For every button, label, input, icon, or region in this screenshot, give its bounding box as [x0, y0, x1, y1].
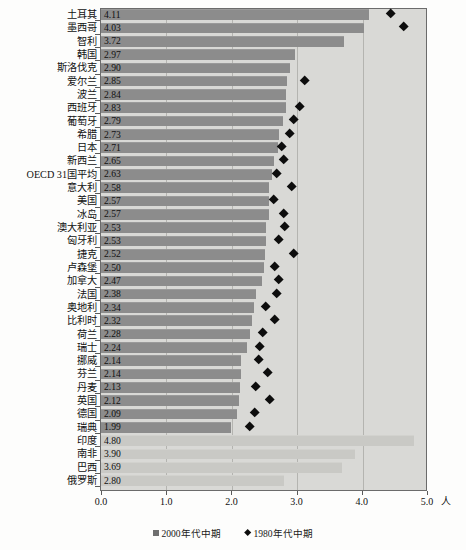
category-tick	[95, 486, 100, 487]
category-label: 爱尔兰	[0, 75, 97, 88]
chart-row: 匈牙利2.53	[0, 234, 466, 247]
category-label: 冰岛	[0, 208, 97, 221]
chart-row: 俄罗斯2.80	[0, 474, 466, 487]
bar-track: 2.24	[101, 342, 427, 354]
bar-track: 3.90	[101, 448, 427, 460]
diamond-marker-1980s	[254, 355, 264, 365]
bar-track: 2.09	[101, 408, 427, 420]
diamond-marker-1980s	[269, 195, 279, 205]
bar-value-label: 3.72	[104, 35, 121, 47]
chart-row: 比利时2.32	[0, 314, 466, 327]
bar-value-label: 2.80	[104, 475, 121, 487]
bar-track: 2.85	[101, 75, 427, 87]
x-axis-unit: 人	[441, 495, 451, 508]
bar-value-label: 2.53	[104, 222, 121, 234]
category-label: 南非	[0, 447, 97, 460]
diamond-marker-1980s	[273, 275, 283, 285]
bar-value-label: 4.11	[104, 9, 120, 21]
bar-2000s	[101, 475, 284, 486]
bar-track: 2.52	[101, 248, 427, 260]
bar-value-label: 2.79	[104, 115, 121, 127]
diamond-marker-1980s	[261, 301, 271, 311]
bar-value-label: 1.99	[104, 421, 121, 433]
chart-row: 西班牙2.83	[0, 101, 466, 114]
bar-2000s	[101, 102, 286, 113]
chart-row: 巴西3.69	[0, 461, 466, 474]
bar-track: 2.73	[101, 129, 427, 141]
chart-row: 瑞士2.24	[0, 341, 466, 354]
category-label: 挪威	[0, 354, 97, 367]
bar-2000s	[101, 63, 290, 74]
legend-item-1980s: 1980年代中期	[245, 526, 313, 541]
figure-caption	[0, 544, 466, 550]
diamond-marker-1980s	[269, 261, 279, 271]
diamond-marker-1980s	[257, 328, 267, 338]
diamond-marker-1980s	[250, 381, 260, 391]
x-axis: 0.01.02.03.04.05.0	[0, 491, 466, 513]
category-label: 芬兰	[0, 367, 97, 380]
x-axis-tick-label: 3.0	[290, 495, 303, 508]
diamond-marker-1980s	[285, 128, 295, 138]
bar-value-label: 2.97	[104, 49, 121, 61]
chart-rows: 土耳其4.11墨西哥4.03智利3.72韩国2.97斯洛伐克2.90爱尔兰2.8…	[0, 8, 466, 487]
bar-value-label: 2.32	[104, 315, 121, 327]
bar-track: 2.32	[101, 315, 427, 327]
bar-2000s	[101, 76, 287, 87]
bar-track: 4.11	[101, 9, 427, 21]
category-label: 荷兰	[0, 328, 97, 341]
category-label: 智利	[0, 35, 97, 48]
category-label: 斯洛伐克	[0, 61, 97, 74]
bar-track: 4.03	[101, 22, 427, 34]
bar-track: 2.50	[101, 262, 427, 274]
bar-2000s	[101, 169, 272, 180]
bar-track: 2.57	[101, 208, 427, 220]
bar-value-label: 2.84	[104, 89, 121, 101]
bar-value-label: 2.52	[104, 248, 121, 260]
bar-track: 2.28	[101, 328, 427, 340]
bar-value-label: 2.50	[104, 262, 121, 274]
category-label: 日本	[0, 141, 97, 154]
bar-track: 2.97	[101, 49, 427, 61]
bar-2000s	[101, 182, 269, 193]
chart-row: OECD 31国平均2.63	[0, 168, 466, 181]
chart-legend: 2000年代中期 1980年代中期	[0, 526, 466, 541]
chart-row: 波兰2.84	[0, 88, 466, 101]
category-label: 意大利	[0, 181, 97, 194]
category-label: 瑞士	[0, 341, 97, 354]
bar-value-label: 2.14	[104, 368, 121, 380]
chart-row: 德国2.09	[0, 407, 466, 420]
bar-value-label: 2.13	[104, 381, 121, 393]
diamond-marker-1980s	[287, 182, 297, 192]
chart-row: 芬兰2.14	[0, 367, 466, 380]
category-label: 波兰	[0, 88, 97, 101]
x-axis-tick-label: 5.0	[421, 495, 434, 508]
category-label: 法国	[0, 288, 97, 301]
bar-track: 2.14	[101, 355, 427, 367]
bar-track: 1.99	[101, 421, 427, 433]
x-axis-tick-label: 2.0	[225, 495, 238, 508]
diamond-marker-1980s	[272, 288, 282, 298]
diamond-marker-1980s	[273, 235, 283, 245]
bar-track: 2.14	[101, 368, 427, 380]
bar-value-label: 2.85	[104, 75, 121, 87]
bar-2000s	[101, 382, 240, 393]
bar-value-label: 2.57	[104, 208, 121, 220]
legend-label-1980s: 1980年代中期	[253, 528, 312, 539]
bar-2000s	[101, 409, 237, 420]
category-label: 匈牙利	[0, 234, 97, 247]
bar-track: 3.72	[101, 35, 427, 47]
bar-2000s	[101, 36, 344, 47]
bar-track: 3.69	[101, 461, 427, 473]
bar-2000s	[101, 355, 241, 366]
diamond-marker-1980s	[244, 421, 254, 431]
category-label: 奥地利	[0, 301, 97, 314]
bar-track: 2.53	[101, 222, 427, 234]
category-label: 墨西哥	[0, 21, 97, 34]
x-axis-tick-label: 0.0	[95, 495, 108, 508]
chart-row: 智利3.72	[0, 35, 466, 48]
diamond-marker-1980s	[262, 368, 272, 378]
bar-value-label: 2.71	[104, 142, 121, 154]
category-label: 卢森堡	[0, 261, 97, 274]
chart-row: 南非3.90	[0, 447, 466, 460]
category-label: 葡萄牙	[0, 115, 97, 128]
